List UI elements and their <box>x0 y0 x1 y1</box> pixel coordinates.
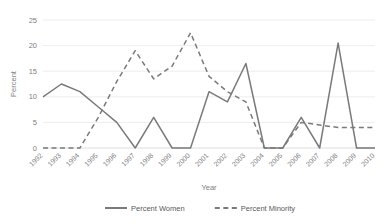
y-axis-tick-label: 0 <box>33 144 37 153</box>
y-axis-tick-label: 10 <box>29 92 37 101</box>
x-axis-tick-label: 1994 <box>65 152 81 168</box>
y-axis-tick-label: 20 <box>29 41 37 50</box>
x-axis-tick-label: 2003 <box>231 152 247 168</box>
x-axis-tick-label: 2010 <box>360 152 376 168</box>
y-axis-tick-label: 15 <box>29 67 37 76</box>
x-axis-tick-label: 2004 <box>249 152 265 168</box>
chart-canvas: 0510152025Percent19921993199419951996199… <box>0 0 388 224</box>
x-axis-tick-label: 1998 <box>138 152 154 168</box>
x-axis-tick-label: 2000 <box>175 152 191 168</box>
x-axis-tick-label: 2005 <box>268 152 284 168</box>
y-axis-tick-label: 5 <box>33 118 37 127</box>
x-axis-title: Year <box>201 183 217 192</box>
x-axis-tick-label: 2006 <box>286 152 302 168</box>
y-axis-title: Percent <box>9 70 18 97</box>
y-axis-tick-label: 25 <box>29 16 37 25</box>
x-axis-tick-label: 2001 <box>194 152 210 168</box>
x-axis-tick-label: 1993 <box>46 152 62 168</box>
legend-label-percent-minority: Percent Minority <box>241 204 295 213</box>
x-axis-tick-label: 2002 <box>212 152 228 168</box>
x-axis-tick-label: 2009 <box>341 152 357 168</box>
x-axis-tick-label: 2008 <box>323 152 339 168</box>
x-axis-tick-label: 1999 <box>157 152 173 168</box>
legend-label-percent-women: Percent Women <box>131 204 185 213</box>
x-axis-tick-label: 1992 <box>28 152 44 168</box>
series-line-percent-women <box>43 43 375 148</box>
x-axis-tick-label: 2007 <box>304 152 320 168</box>
x-axis-tick-label: 1997 <box>120 152 136 168</box>
x-axis-tick-label: 1995 <box>83 152 99 168</box>
line-chart: 0510152025Percent19921993199419951996199… <box>0 0 388 224</box>
x-axis-tick-label: 1996 <box>102 152 118 168</box>
series-line-percent-minority <box>43 33 375 148</box>
